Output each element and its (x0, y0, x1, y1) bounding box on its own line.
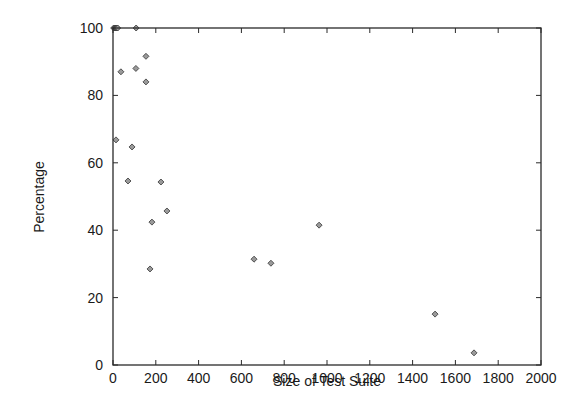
plot-frame (113, 28, 541, 365)
x-tick-label: 1600 (440, 370, 471, 386)
x-tick-label: 0 (109, 370, 117, 386)
y-tick-label: 60 (87, 155, 103, 171)
data-point-marker (251, 256, 257, 262)
data-point-marker (149, 219, 155, 225)
scatter-chart: 0200400600800100012001400160018002000020… (0, 0, 582, 420)
data-point-marker (129, 144, 135, 150)
data-point-marker (268, 260, 274, 266)
x-tick-label: 200 (144, 370, 168, 386)
data-point-marker (125, 178, 131, 184)
y-tick-label: 20 (87, 290, 103, 306)
data-point-marker (118, 69, 124, 75)
axis-ticks: 0200400600800100012001400160018002000020… (80, 20, 557, 386)
data-point-marker (143, 79, 149, 85)
data-point-marker (316, 222, 322, 228)
y-tick-label: 80 (87, 87, 103, 103)
data-point-marker (164, 208, 170, 214)
data-point-marker (158, 179, 164, 185)
x-axis-label: Size of Test Suite (273, 373, 381, 389)
data-points (111, 25, 477, 356)
data-point-marker (113, 137, 119, 143)
data-point-marker (147, 266, 153, 272)
x-tick-label: 600 (230, 370, 254, 386)
x-tick-label: 1800 (483, 370, 514, 386)
x-tick-label: 1400 (397, 370, 428, 386)
data-point-marker (133, 65, 139, 71)
y-tick-label: 100 (80, 20, 104, 36)
data-point-marker (432, 311, 438, 317)
y-tick-label: 40 (87, 222, 103, 238)
x-tick-label: 400 (187, 370, 211, 386)
x-tick-label: 2000 (525, 370, 556, 386)
y-tick-label: 0 (95, 357, 103, 373)
data-point-marker (471, 350, 477, 356)
data-point-marker (143, 53, 149, 59)
y-axis-label: Percentage (31, 161, 47, 233)
